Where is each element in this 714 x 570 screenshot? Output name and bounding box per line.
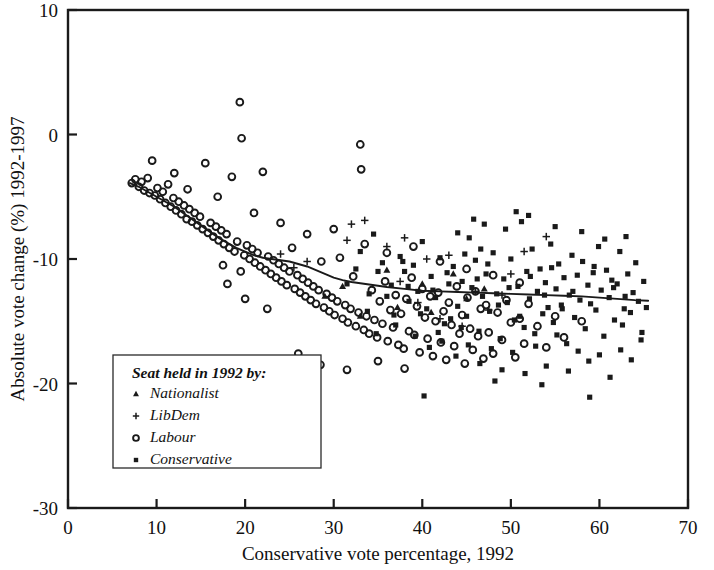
data-point-square	[448, 316, 453, 321]
legend-marker-square	[134, 458, 138, 462]
data-point-square	[478, 246, 483, 251]
data-point-square	[418, 311, 423, 316]
data-point-square	[564, 341, 569, 346]
data-point-square	[439, 339, 444, 344]
data-point-square	[429, 274, 434, 279]
legend-label-labour: Labour	[149, 428, 197, 445]
data-point-square	[475, 276, 480, 281]
data-point-square	[570, 289, 575, 294]
data-point-square	[585, 283, 590, 288]
x-tick-label: 20	[236, 517, 255, 538]
data-point-square	[393, 322, 398, 327]
data-point-square	[556, 261, 561, 266]
data-point-square	[353, 266, 358, 271]
data-point-square	[384, 294, 389, 299]
data-point-square	[638, 337, 643, 342]
data-point-square	[527, 296, 532, 301]
data-point-square	[460, 279, 465, 284]
data-point-square	[400, 259, 405, 264]
data-point-square	[398, 254, 403, 259]
data-point-square	[591, 270, 596, 275]
data-point-square	[569, 253, 574, 258]
data-point-square	[572, 315, 577, 320]
data-point-square	[566, 368, 571, 373]
data-point-square	[588, 301, 593, 306]
data-point-square	[455, 230, 460, 235]
data-point-square	[576, 349, 581, 354]
data-point-square	[601, 334, 606, 339]
data-point-square	[522, 371, 527, 376]
y-tick-label: -30	[33, 498, 58, 519]
data-point-square	[583, 326, 588, 331]
data-point-square	[421, 393, 426, 398]
data-point-square	[501, 276, 506, 281]
data-point-square	[560, 306, 565, 311]
data-point-square	[545, 305, 550, 310]
data-point-square	[633, 260, 638, 265]
x-tick-label: 10	[147, 517, 166, 538]
data-point-square	[374, 331, 379, 336]
data-point-square	[592, 264, 597, 269]
data-point-square	[462, 251, 467, 256]
y-tick-label: 0	[49, 125, 59, 146]
data-point-square	[628, 310, 633, 315]
data-point-square	[586, 359, 591, 364]
data-point-square	[540, 311, 545, 316]
data-point-square	[402, 269, 407, 274]
legend-title: Seat held in 1992 by:	[132, 364, 266, 381]
data-point-square	[482, 222, 487, 227]
data-point-square	[424, 306, 429, 311]
data-point-square	[623, 234, 628, 239]
data-point-square	[553, 286, 558, 291]
x-tick-label: 30	[324, 517, 343, 538]
data-point-square	[451, 264, 456, 269]
data-point-square	[602, 237, 607, 242]
x-tick-label: 60	[590, 517, 609, 538]
data-point-square	[539, 382, 544, 387]
data-point-square	[575, 273, 580, 278]
data-point-square	[597, 352, 602, 357]
data-point-square	[507, 285, 512, 290]
data-point-square	[365, 309, 370, 314]
data-point-square	[517, 314, 522, 319]
data-point-square	[498, 336, 503, 341]
data-point-square	[477, 361, 482, 366]
data-point-square	[476, 329, 481, 334]
data-point-square	[551, 320, 556, 325]
data-point-square	[526, 213, 531, 218]
data-point-square	[631, 290, 636, 295]
data-point-square	[532, 331, 537, 336]
legend: Seat held in 1992 by: NationalistLibDemL…	[113, 355, 321, 468]
data-point-square	[617, 249, 622, 254]
x-tick-label: 40	[413, 517, 432, 538]
data-point-square	[543, 280, 548, 285]
data-point-square	[469, 285, 474, 290]
x-axis-title: Conservative vote percentage, 1992	[242, 543, 514, 564]
data-point-square	[535, 289, 540, 294]
data-point-square	[411, 263, 416, 268]
data-point-square	[503, 227, 508, 232]
data-point-square	[618, 347, 623, 352]
data-point-square	[522, 325, 527, 330]
y-tick-label: -20	[33, 374, 58, 395]
data-point-square	[524, 269, 529, 274]
chart-figure: 010203040506070 100-10-20-30 Conservativ…	[0, 0, 714, 570]
data-point-square	[639, 330, 644, 335]
data-point-square	[406, 299, 411, 304]
chart-background	[0, 0, 714, 570]
data-point-square	[367, 291, 372, 296]
data-point-square	[530, 246, 535, 251]
data-point-square	[577, 298, 582, 303]
data-point-square	[519, 219, 524, 224]
data-point-square	[442, 321, 447, 326]
data-point-square	[413, 334, 418, 339]
data-point-square	[641, 279, 646, 284]
data-point-square	[437, 255, 442, 260]
data-point-square	[607, 375, 612, 380]
data-point-square	[612, 317, 617, 322]
data-point-square	[512, 317, 517, 322]
data-point-square	[380, 260, 385, 265]
scatter-plot-svg: 010203040506070 100-10-20-30 Conservativ…	[0, 0, 714, 570]
data-point-square	[492, 378, 497, 383]
data-point-square	[505, 300, 510, 305]
